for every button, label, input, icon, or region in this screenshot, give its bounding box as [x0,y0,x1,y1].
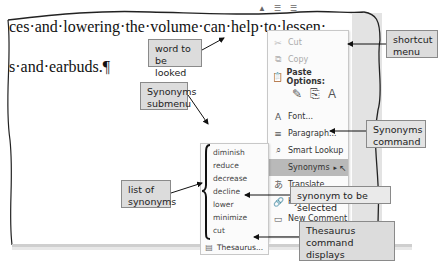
callout-thesaurus-command: Thesaurus command displays Thesaurus tas… [299,221,395,261]
font-color-icon[interactable]: ▲ [258,4,266,13]
mouse-pointer-icon: ↖ [339,163,347,173]
search-icon: ⌕ [268,145,288,156]
mini-toolbar[interactable]: ▲ ☰ ☰ [230,4,352,14]
paste-keep-formatting-icon[interactable]: ✎ [292,87,302,101]
synonym-decline[interactable]: decline [213,187,240,196]
submenu-arrow-icon: ▸ [334,164,338,172]
copy-icon: ⧉ [268,54,288,65]
bullets-icon[interactable]: ☰ [274,4,281,13]
callout-word-lookup: word to be looked up [148,39,202,67]
paste-text-only-icon[interactable]: A [328,87,336,101]
callout-synonyms-command: Synonyms command [366,120,426,148]
menu-item-copy[interactable]: ⧉Copy [268,51,348,68]
translate-icon: あ [268,178,288,191]
synonyms-bracket [200,143,214,240]
synonym-lower[interactable]: lower [213,200,234,209]
link-icon: 🔗 [268,197,288,207]
menu-item-paragraph[interactable]: ≡Paragraph... [268,125,348,142]
comment-icon: ▭ [268,214,288,224]
menu-item-synonyms[interactable]: Synonyms▸↖ [268,159,348,176]
font-icon: A [268,112,288,122]
document-line-2[interactable]: s·and·earbuds.¶ [9,58,110,76]
menu-item-cut[interactable]: ✂Cut [268,34,348,51]
paste-icon: 📋 [268,72,287,82]
synonym-cut[interactable]: cut [213,226,225,235]
thesaurus-menu-item[interactable]: ▤ Thesaurus... [200,240,269,255]
menu-item-smart-lookup[interactable]: ⌕Smart Lookup [268,142,348,159]
callout-synonym-selected: synonym to be selected [290,186,391,204]
paragraph-icon: ≡ [268,129,288,139]
synonym-minimize[interactable]: minimize [213,213,247,222]
menu-item-paste-options: 📋Paste Options: [268,68,348,85]
callout-synonyms-submenu: Synonyms submenu [140,82,188,110]
paste-option-buttons: ✎ ⎘ A [292,87,348,103]
synonym-diminish[interactable]: diminish [213,148,245,157]
thesaurus-icon: ▤ [201,243,217,252]
callout-shortcut-menu: shortcut menu [386,30,438,58]
callout-list-of-synonyms: list of synonyms [121,180,171,208]
synonym-reduce[interactable]: reduce [213,161,239,170]
paste-merge-formatting-icon[interactable]: ⎘ [310,87,320,101]
numbering-icon[interactable]: ☰ [290,4,297,13]
menu-item-font[interactable]: AFont... [268,108,348,125]
scissors-icon: ✂ [268,38,288,48]
synonym-decrease[interactable]: decrease [213,174,247,183]
